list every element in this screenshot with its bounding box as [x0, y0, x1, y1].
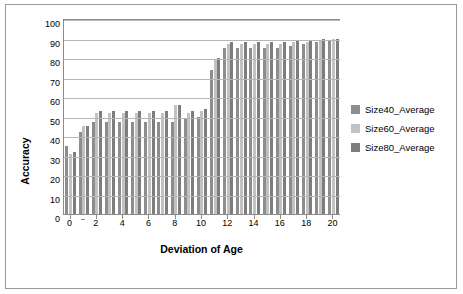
legend-swatch-size60 [351, 124, 360, 133]
bar [279, 44, 282, 214]
bar [161, 113, 164, 214]
bar [249, 48, 252, 214]
x-tick-mark [175, 215, 176, 219]
y-tick-label: 80 [28, 58, 60, 68]
y-axis-tick-labels: 0102030405060708090100 [28, 13, 60, 221]
y-tick-label: 40 [28, 136, 60, 146]
x-tick-mark [96, 215, 97, 219]
bar [197, 117, 200, 215]
bar [178, 105, 181, 214]
bar [191, 111, 194, 214]
bar [276, 48, 279, 214]
x-tick-label: 20 [325, 218, 339, 228]
bar [204, 109, 207, 214]
y-tick-label: 30 [28, 156, 60, 166]
x-tick-label: 14 [247, 218, 261, 228]
bar [112, 111, 115, 214]
x-tick-label: 8 [168, 218, 182, 228]
bar [148, 113, 151, 214]
bar [95, 113, 98, 214]
x-tick-mark [122, 215, 123, 219]
bar [283, 42, 286, 214]
bar [322, 39, 325, 215]
bar [319, 40, 322, 214]
x-tick-label: 10 [194, 218, 208, 228]
gridline [64, 196, 340, 197]
bar [174, 105, 177, 214]
chart-container: Accuracy 0102030405060708090100 02468101… [5, 4, 457, 289]
gridline [64, 176, 340, 177]
x-tick-mark [254, 215, 255, 219]
bar [309, 40, 312, 214]
bar [240, 44, 243, 214]
bar [227, 44, 230, 214]
x-tick-label: 4 [115, 218, 129, 228]
bar [328, 40, 331, 214]
gridline [64, 59, 340, 60]
bar [86, 126, 89, 214]
bar [184, 118, 187, 214]
y-tick-label: 50 [28, 117, 60, 127]
x-axis-tick-labels: 02468101214161820 [63, 218, 340, 232]
bar [138, 111, 141, 214]
x-tick-label: 18 [299, 218, 313, 228]
y-tick-label: 90 [28, 39, 60, 49]
gridline [64, 118, 340, 119]
bar [296, 40, 299, 214]
legend-item-size80: Size80_Average [351, 141, 455, 153]
bar [82, 126, 85, 214]
x-tick-mark [201, 215, 202, 219]
bar [200, 111, 203, 214]
legend-label-size80: Size80_Average [365, 142, 435, 153]
bar [244, 42, 247, 214]
bar [187, 113, 190, 214]
bar [332, 39, 335, 215]
y-tick-label: 20 [28, 175, 60, 185]
bar [266, 44, 269, 214]
bar [210, 70, 213, 214]
gridline [64, 157, 340, 158]
bar [253, 44, 256, 214]
legend-item-size60: Size60_Average [351, 122, 455, 134]
y-tick-label: 0 [28, 214, 60, 224]
plot-area [63, 19, 340, 215]
y-tick-label: 70 [28, 78, 60, 88]
y-tick-label: 100 [28, 19, 60, 29]
x-tick-mark [280, 215, 281, 219]
bar [336, 39, 339, 215]
x-tick-label: 12 [220, 218, 234, 228]
bar [217, 58, 220, 214]
bar [135, 113, 138, 214]
legend-label-size40: Size40_Average [365, 104, 435, 115]
bar [292, 42, 295, 214]
bar [306, 42, 309, 214]
legend-swatch-size40 [351, 105, 360, 114]
bar [73, 152, 76, 214]
y-tick-label: 10 [28, 195, 60, 205]
bar [270, 42, 273, 214]
bar [99, 111, 102, 214]
bar [302, 44, 305, 214]
bar [152, 111, 155, 214]
bar [315, 42, 318, 214]
legend-item-size40: Size40_Average [351, 103, 455, 115]
legend-label-size60: Size60_Average [365, 123, 435, 134]
bar [125, 111, 128, 214]
bar [122, 113, 125, 214]
x-tick-mark [332, 215, 333, 219]
x-tick-label: 16 [273, 218, 287, 228]
bar [108, 113, 111, 214]
gridline [64, 40, 340, 41]
bar [165, 111, 168, 214]
bar [289, 46, 292, 214]
x-tick-label: 2 [89, 218, 103, 228]
bar [257, 42, 260, 214]
legend-swatch-size80 [351, 143, 360, 152]
chart-legend: Size40_Average Size60_Average Size80_Ave… [351, 103, 455, 160]
gridline [64, 98, 340, 99]
gridline [64, 79, 340, 80]
gridline [64, 137, 340, 138]
bar [236, 48, 239, 214]
x-tick-mark [70, 215, 71, 219]
gridline [64, 20, 340, 21]
